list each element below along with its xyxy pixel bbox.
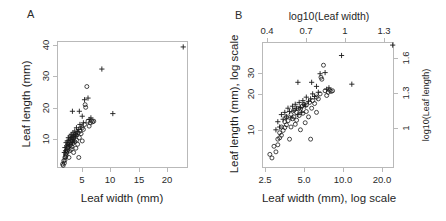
panel-a-xtick-3 — [167, 168, 168, 172]
panel-b-toptick-2 — [345, 38, 346, 42]
panel-b-xtick-2 — [343, 168, 344, 172]
panel-b-xtick-label-0: 2.5 — [258, 174, 271, 185]
panel-a-y-axis-title: Leaf length (mm) — [20, 61, 32, 148]
panel-a-xtick-2 — [139, 168, 140, 172]
panel-b-right-axis-title: log10(Leaf length) — [421, 69, 431, 142]
panel-a-xtick-label-1: 10 — [105, 174, 116, 185]
panel-b-toptick-label-1: 0.7 — [299, 25, 312, 36]
panel-b-xtick-1 — [304, 168, 305, 172]
panel-a-letter: A — [27, 8, 35, 20]
panel-b-plot-area — [262, 42, 394, 168]
panel-b-righttick-2 — [394, 58, 398, 59]
panel-b-righttick-label-1: 1.3 — [400, 86, 411, 99]
panel-b-righttick-0 — [394, 128, 398, 129]
panel-b-y-axis-title: Leaf length (mm), log scale — [228, 35, 240, 174]
panel-b-xtick-0 — [265, 168, 266, 172]
panel-b-toptick-label-2: 1 — [342, 25, 347, 36]
panel-b-toptick-label-3: 1.3 — [377, 25, 390, 36]
panel-b-xtick-3 — [382, 168, 383, 172]
panel-b-x-axis-title: Leaf width (mm), log scale — [262, 192, 396, 204]
panel-b-toptick-3 — [384, 38, 385, 42]
panel-a-ytick-2 — [53, 76, 57, 77]
panel-a-ytick-label-3: 40 — [40, 40, 51, 51]
panel-b-scatter — [263, 43, 395, 169]
panel-b-ytick-label-1: 20 — [245, 89, 256, 100]
figure-container: A 5 10 15 20 10 20 30 40 Leaf width (mm)… — [0, 0, 446, 221]
panel-b-ytick-0 — [258, 130, 262, 131]
panel-a-x-axis-title: Leaf width (mm) — [81, 192, 163, 204]
panel-a-xtick-1 — [110, 168, 111, 172]
panel-b-ytick-1 — [258, 94, 262, 95]
panel-a-xtick-label-3: 20 — [162, 174, 173, 185]
panel-b-ytick-label-0: 10 — [245, 125, 256, 136]
panel-b-toptick-0 — [267, 38, 268, 42]
panel-a-xtick-0 — [82, 168, 83, 172]
panel-b-righttick-label-0: 1 — [400, 125, 411, 130]
panel-b-xtick-label-1: 5.0 — [297, 174, 310, 185]
panel-a-ytick-0 — [53, 139, 57, 140]
panel-a-scatter — [58, 42, 189, 169]
panel-a-ytick-1 — [53, 108, 57, 109]
panel-a: A 5 10 15 20 10 20 30 40 Leaf width (mm)… — [0, 0, 223, 221]
panel-a-ytick-3 — [53, 45, 57, 46]
panel-a-xtick-label-0: 5 — [79, 174, 84, 185]
panel-a-plot-area — [57, 41, 188, 168]
panel-b-top-axis-title: log10(Leaf width) — [289, 10, 370, 22]
panel-b-ytick-label-2: 30 — [245, 68, 256, 79]
panel-b-xtick-label-2: 10.0 — [334, 174, 353, 185]
panel-b-letter: B — [235, 9, 243, 21]
panel-b: B 2.5 5.0 10.0 20.0 10 20 30 0.4 0.7 1 1… — [223, 0, 446, 221]
panel-a-xtick-label-2: 15 — [134, 174, 145, 185]
panel-b-righttick-1 — [394, 93, 398, 94]
panel-b-toptick-1 — [306, 38, 307, 42]
panel-a-ytick-label-0: 10 — [40, 134, 51, 145]
panel-b-toptick-label-0: 0.4 — [260, 25, 273, 36]
panel-a-ytick-label-2: 30 — [40, 71, 51, 82]
panel-b-righttick-label-2: 1.6 — [400, 51, 411, 64]
panel-a-ytick-label-1: 20 — [40, 103, 51, 114]
panel-b-xtick-label-3: 20.0 — [373, 174, 392, 185]
panel-b-ytick-2 — [258, 73, 262, 74]
